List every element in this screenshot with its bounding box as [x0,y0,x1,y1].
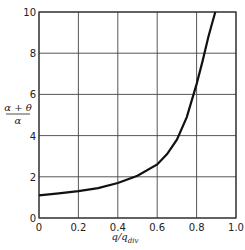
svg-text:α + θ: α + θ [4,102,32,113]
y-axis-label: α + θ α [4,102,32,126]
svg-text:10: 10 [23,7,36,18]
tick-labels: 00.20.40.60.81.00246810 [23,7,244,233]
x-axis-label: q/qdiv [112,231,139,245]
chart: 00.20.40.60.81.00246810 q/qdiv α + θ α [0,0,245,250]
svg-text:α: α [15,115,22,126]
svg-text:0: 0 [36,222,42,233]
svg-text:8: 8 [30,48,36,59]
svg-text:0.6: 0.6 [149,222,165,233]
svg-text:4: 4 [30,131,36,142]
svg-text:2: 2 [30,172,36,183]
data-curve [39,12,215,195]
svg-text:1.0: 1.0 [228,222,244,233]
svg-text:0.8: 0.8 [189,222,205,233]
svg-text:0: 0 [30,213,36,224]
svg-text:6: 6 [30,89,36,100]
svg-text:0.2: 0.2 [70,222,86,233]
